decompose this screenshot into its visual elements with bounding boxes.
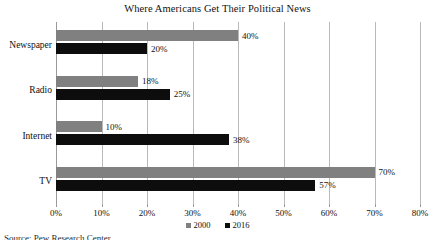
x-tick-40% (238, 204, 239, 207)
x-axis: 0%10%20%30%40%50%60%70%80% (56, 204, 420, 220)
legend-item-2000[interactable]: 2000 (186, 221, 211, 230)
bar-value-internet-2000: 10% (106, 122, 123, 132)
bar-value-newspaper-2000: 40% (242, 31, 259, 41)
x-tick-label-20%: 20% (139, 208, 156, 218)
chart-legend: 20002016 (0, 221, 435, 230)
category-label-tv: TV (39, 176, 52, 186)
x-tick-20% (147, 204, 148, 207)
category-label-internet: Internet (22, 131, 52, 141)
x-tick-label-10%: 10% (93, 208, 110, 218)
bar-value-internet-2016: 38% (233, 135, 250, 145)
legend-swatch-2016 (225, 223, 230, 228)
x-tick-label-30%: 30% (184, 208, 201, 218)
legend-label-2016: 2016 (233, 221, 250, 230)
x-tick-label-50%: 50% (275, 208, 292, 218)
bar-value-radio-2016: 25% (174, 89, 191, 99)
x-tick-label-60%: 60% (321, 208, 338, 218)
x-tick-label-0%: 0% (50, 208, 62, 218)
legend-item-2016[interactable]: 2016 (225, 221, 250, 230)
source-note: Source: Pew Research Center (4, 233, 111, 240)
x-tick-label-70%: 70% (366, 208, 383, 218)
bar-row-radio: Radio18%25% (56, 68, 420, 114)
chart-container: Where Americans Get Their Political News… (0, 0, 435, 240)
chart-title: Where Americans Get Their Political News (0, 2, 435, 16)
bar-value-radio-2000: 18% (142, 76, 159, 86)
category-label-newspaper: Newspaper (9, 40, 52, 50)
x-tick-80% (420, 204, 421, 207)
x-tick-60% (329, 204, 330, 207)
x-tick-50% (284, 204, 285, 207)
x-tick-0% (56, 204, 57, 207)
x-tick-30% (193, 204, 194, 207)
bar-radio-2016[interactable]: 25% (56, 89, 170, 100)
x-tick-label-80%: 80% (412, 208, 429, 218)
legend-swatch-2000 (186, 223, 191, 228)
bar-tv-2016[interactable]: 57% (56, 180, 315, 191)
bar-internet-2016[interactable]: 38% (56, 134, 229, 145)
bar-tv-2000[interactable]: 70% (56, 167, 375, 178)
bar-newspaper-2016[interactable]: 20% (56, 43, 147, 54)
bar-row-internet: Internet10%38% (56, 113, 420, 159)
bar-newspaper-2000[interactable]: 40% (56, 30, 238, 41)
legend-label-2000: 2000 (194, 221, 211, 230)
x-tick-label-40%: 40% (230, 208, 247, 218)
bar-internet-2000[interactable]: 10% (56, 121, 102, 132)
gridline-80% (420, 22, 421, 204)
bar-row-tv: TV70%57% (56, 159, 420, 205)
category-label-radio: Radio (29, 85, 52, 95)
bar-radio-2000[interactable]: 18% (56, 76, 138, 87)
bar-row-newspaper: Newspaper40%20% (56, 22, 420, 68)
x-tick-70% (375, 204, 376, 207)
bar-value-newspaper-2016: 20% (151, 44, 168, 54)
x-tick-10% (102, 204, 103, 207)
bar-value-tv-2000: 70% (379, 167, 396, 177)
bar-value-tv-2016: 57% (319, 180, 336, 190)
plot-area: Newspaper40%20%Radio18%25%Internet10%38%… (56, 22, 420, 204)
